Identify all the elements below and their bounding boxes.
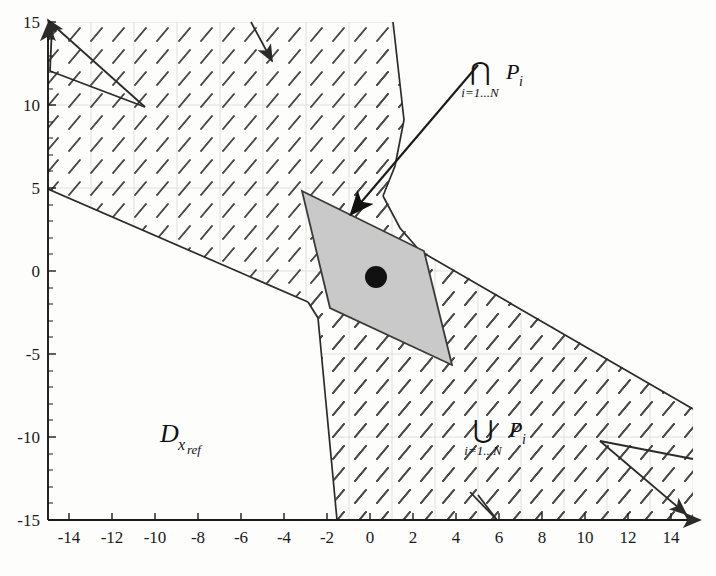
x-tick-label: 0 bbox=[366, 528, 375, 547]
domain-symbol: D bbox=[159, 419, 179, 448]
y-axis-tick-labels: 15 10 5 0 -5 -10 -15 bbox=[17, 13, 40, 530]
figure-canvas: -14 -12 -10 -8 -6 -4 -2 0 2 4 6 8 10 12 … bbox=[0, 0, 716, 576]
polyhedra-intersection-plot: -14 -12 -10 -8 -6 -4 -2 0 2 4 6 8 10 12 … bbox=[0, 0, 716, 576]
intersection-set-subscript: i bbox=[519, 74, 523, 89]
y-tick-label: 15 bbox=[23, 13, 40, 32]
x-tick-label: -2 bbox=[320, 528, 334, 547]
x-tick-label: -10 bbox=[144, 528, 167, 547]
x-tick-label: -6 bbox=[234, 528, 248, 547]
intersection-set-symbol: P bbox=[505, 59, 519, 84]
x-tick-label: 4 bbox=[452, 528, 461, 547]
domain-subsubscript: ref bbox=[187, 442, 203, 457]
x-tick-label: -12 bbox=[101, 528, 124, 547]
union-operator-subscript: i=1...N bbox=[464, 443, 503, 458]
y-tick-label: 5 bbox=[32, 179, 41, 198]
intersection-operator-glyph: ⋂ bbox=[470, 58, 491, 85]
x-tick-label: 14 bbox=[663, 528, 681, 547]
x-tick-label: 6 bbox=[495, 528, 504, 547]
y-tick-label: -10 bbox=[17, 428, 40, 447]
x-axis-tick-labels: -14 -12 -10 -8 -6 -4 -2 0 2 4 6 8 10 12 … bbox=[58, 528, 680, 547]
intersection-operator-subscript: i=1...N bbox=[461, 85, 500, 100]
x-tick-label: -14 bbox=[58, 528, 81, 547]
union-set-symbol: P bbox=[508, 417, 522, 442]
x-tick-label: 8 bbox=[538, 528, 547, 547]
x-tick-label: 12 bbox=[620, 528, 637, 547]
domain-subscript: x bbox=[177, 436, 185, 453]
y-tick-label: 0 bbox=[32, 262, 41, 281]
x-tick-label: 2 bbox=[409, 528, 418, 547]
x-tick-label: -8 bbox=[191, 528, 205, 547]
y-tick-label: -15 bbox=[17, 511, 40, 530]
reference-point-marker bbox=[365, 266, 387, 288]
union-set-subscript: i bbox=[522, 432, 526, 447]
union-operator-glyph: ⋃ bbox=[473, 416, 494, 443]
y-tick-label: -5 bbox=[26, 345, 40, 364]
y-tick-label: 10 bbox=[23, 96, 40, 115]
x-tick-label: 10 bbox=[577, 528, 594, 547]
x-tick-label: -4 bbox=[277, 528, 292, 547]
